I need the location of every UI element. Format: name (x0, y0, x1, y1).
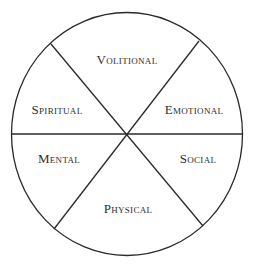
life-dimensions-wheel: Volitional Emotional Social Physical Men… (0, 0, 254, 264)
segment-label-emotional: Emotional (165, 102, 224, 117)
segment-label-social: Social (180, 151, 217, 166)
segment-label-volitional: Volitional (97, 52, 158, 67)
segment-label-mental: Mental (38, 151, 80, 166)
segment-label-physical: Physical (104, 201, 153, 216)
segment-label-spiritual: Spiritual (32, 102, 83, 117)
